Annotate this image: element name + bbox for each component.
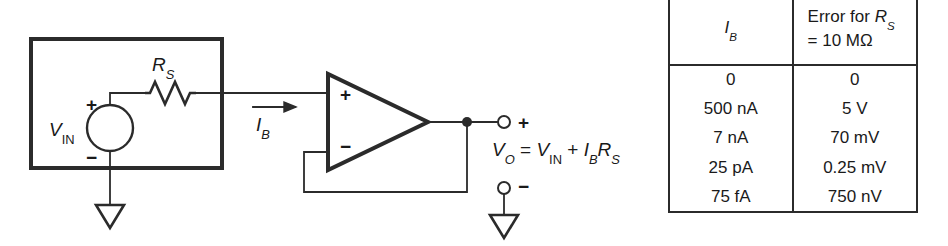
output-plus-sign: + <box>518 113 529 132</box>
table-cell-error: 0.25 mV <box>793 153 917 182</box>
wire-source-to-rail <box>110 93 145 105</box>
table-header-error-label: Error for RS = 10 MΩ <box>794 6 916 51</box>
table-cell-ib: 25 pA <box>669 153 793 182</box>
table-cell-error: 750 nV <box>793 183 917 212</box>
output-terminal-plus-circle <box>498 116 510 128</box>
table-row: 0 0 <box>669 65 917 94</box>
ground-output-icon <box>490 215 518 238</box>
table-header: IB Error for RS = 10 MΩ <box>669 0 917 65</box>
table-header-error-line1: Error for RS <box>808 7 895 26</box>
table-header-row: IB Error for RS = 10 MΩ <box>669 0 917 65</box>
opamp-inverting-input-sign: − <box>340 137 351 156</box>
table-header-cell-error: Error for RS = 10 MΩ <box>793 0 917 65</box>
current-direction-arrow-head <box>284 102 296 112</box>
table-cell-ib: 75 fA <box>669 183 793 212</box>
bias-current-error-table: IB Error for RS = 10 MΩ 0 0 500 nA 5 V <box>668 0 918 213</box>
figure-root: RS VIN + − IB + − + − VO = VIN + IBRS IB… <box>0 0 948 246</box>
table-cell-error: 0 <box>793 65 917 94</box>
table-header-cell-ib: IB <box>669 0 793 65</box>
resistor-label: RS <box>152 55 174 79</box>
source-label: VIN <box>49 120 75 144</box>
table-cell-ib: 500 nA <box>669 94 793 123</box>
opamp-noninverting-input-sign: + <box>340 85 351 104</box>
ground-source-icon <box>96 205 124 228</box>
table-cell-error: 70 mV <box>793 124 917 153</box>
output-terminal-minus-circle <box>498 182 510 194</box>
table-header-error-line2: = 10 MΩ <box>808 31 873 50</box>
source-enclosure-box <box>31 39 222 168</box>
table-body: 0 0 500 nA 5 V 7 nA 70 mV 25 pA 0.25 mV … <box>669 65 917 212</box>
table-row: 500 nA 5 V <box>669 94 917 123</box>
table-cell-error: 5 V <box>793 94 917 123</box>
output-equation: VO = VIN + IBRS <box>492 140 620 164</box>
table-row: 75 fA 750 nV <box>669 183 917 212</box>
table-header-ib-label: IB <box>670 18 792 39</box>
table-cell-ib: 7 nA <box>669 124 793 153</box>
table-cell-ib: 0 <box>669 65 793 94</box>
table-row: 7 nA 70 mV <box>669 124 917 153</box>
bias-current-label: IB <box>256 115 270 139</box>
table-row: 25 pA 0.25 mV <box>669 153 917 182</box>
source-plus-sign: + <box>86 95 97 114</box>
output-minus-sign: − <box>518 177 529 196</box>
resistor-zigzag <box>145 82 196 104</box>
source-minus-sign: − <box>86 148 97 167</box>
